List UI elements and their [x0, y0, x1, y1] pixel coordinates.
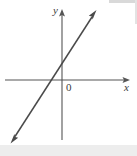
- plotted-line: [11, 10, 97, 144]
- x-axis-label: x: [124, 82, 129, 93]
- y-axis-label: y: [53, 5, 58, 16]
- figure-container: y x 0: [0, 0, 137, 156]
- coordinate-plane-plot: [0, 0, 137, 156]
- y-axis: [59, 9, 65, 140]
- origin-label: 0: [66, 82, 72, 93]
